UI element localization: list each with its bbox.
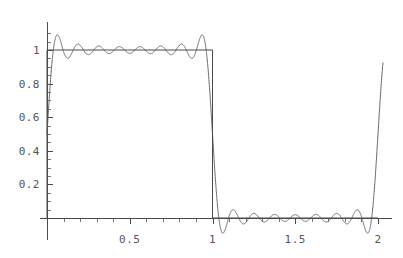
y-tick-label: 0.8: [19, 78, 40, 91]
y-tick-label: 0.6: [19, 111, 40, 124]
y-tick-label: 1: [33, 44, 40, 57]
x-tick-label: 0.5: [119, 233, 140, 246]
y-tick-label: 0.2: [19, 178, 40, 191]
gibbs-phenomenon-chart: 0.511.52 0.20.40.60.81: [0, 0, 403, 258]
x-tick-label: 1: [209, 233, 216, 246]
square-wave-curve: [47, 50, 378, 218]
x-axis-tick-labels: 0.511.52: [119, 233, 382, 246]
plot-canvas: 0.511.52 0.20.40.60.81: [0, 0, 403, 258]
fourier-partial-sum-curve: [47, 35, 383, 233]
axes-group: [40, 22, 392, 240]
x-axis-major-ticks: [131, 219, 379, 224]
x-tick-label: 1.5: [285, 233, 306, 246]
y-tick-label: 0.4: [19, 145, 40, 158]
x-tick-label: 2: [374, 233, 381, 246]
y-axis-tick-labels: 0.20.40.60.81: [19, 44, 40, 191]
